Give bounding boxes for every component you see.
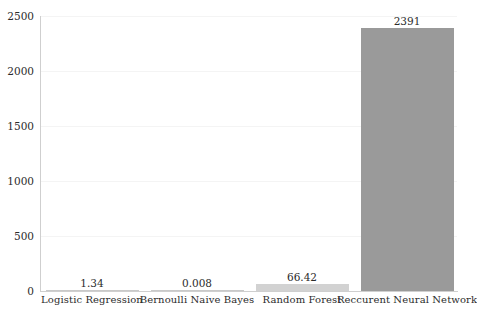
y-tick-label-2500: 2500	[0, 10, 34, 22]
y-tick-label-0: 0	[0, 285, 34, 297]
value-label-logistic-regression: 1.34	[80, 277, 103, 289]
x-tick-label-logistic-regression: Logistic Regression	[41, 294, 143, 305]
bar-random-forest[interactable]	[256, 284, 349, 291]
y-tick-label-500: 500	[0, 230, 34, 242]
y-tick-label-1500: 1500	[0, 120, 34, 132]
x-tick-label-reccurent-neural-network: Reccurent Neural Network	[337, 294, 477, 305]
bar-reccurent-neural-network[interactable]	[361, 28, 454, 291]
y-tick-label-2000: 2000	[0, 65, 34, 77]
x-axis-line	[40, 291, 458, 292]
x-tick-label-random-forest: Random Forest	[263, 294, 342, 305]
y-axis-line	[40, 16, 41, 292]
x-tick-label-bernoulli-naive-bayes: Bernoulli Naive Bayes	[140, 294, 255, 305]
value-label-bernoulli-naive-bayes: 0.008	[182, 277, 212, 289]
y-tick-label-1000: 1000	[0, 175, 34, 187]
plot-area	[40, 16, 457, 291]
value-label-reccurent-neural-network: 2391	[394, 15, 421, 27]
value-label-random-forest: 66.42	[287, 271, 317, 283]
